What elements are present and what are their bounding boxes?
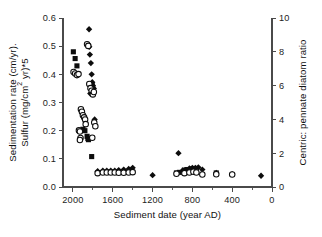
x-tick-label-800: 800 <box>184 195 200 205</box>
y-axis-title-line1: Sedimentation rate (cm/yr). <box>7 43 18 161</box>
data-point-circle <box>194 170 200 176</box>
y2-axis-title: Centric: pennate diatom ratio <box>297 39 308 165</box>
data-point-square <box>71 49 76 54</box>
series-2-square <box>71 49 219 175</box>
data-point-circle <box>76 71 82 77</box>
y2-tick-label-0: 0 <box>279 182 284 192</box>
data-point-circle <box>90 135 96 141</box>
y-tick-label-0.2: 0.2 <box>43 126 56 136</box>
y-axis-title-line2-pre: Sulfur (mg/cm <box>19 86 30 147</box>
scatter-plot: 0.00.10.20.30.40.50.60246810200016001200… <box>0 0 322 237</box>
data-point-circle <box>214 171 220 177</box>
y-axis-title-line2-post: yr)*5 <box>19 58 30 82</box>
data-point-circle <box>130 169 136 175</box>
y-tick-label-0.5: 0.5 <box>43 41 56 51</box>
data-point-diamond <box>86 26 92 32</box>
data-markers-layer <box>71 26 264 179</box>
y2-tick-label-6: 6 <box>279 81 284 91</box>
y-tick-label-0.6: 0.6 <box>43 13 56 23</box>
y2-tick-label-10: 10 <box>279 13 290 23</box>
data-point-diamond <box>89 71 95 77</box>
y-tick-label-0.4: 0.4 <box>43 70 56 80</box>
data-point-circle <box>86 43 92 49</box>
x-tick-label-1200: 1200 <box>142 195 163 205</box>
data-point-diamond <box>258 173 264 179</box>
x-tick-label-2000: 2000 <box>62 195 83 205</box>
y-tick-label-0.1: 0.1 <box>43 154 56 164</box>
data-point-circle <box>77 129 83 135</box>
data-point-square <box>74 63 79 68</box>
y2-axis-title-text: Centric: pennate diatom ratio <box>297 39 308 165</box>
data-point-circle <box>93 123 99 129</box>
data-point-diamond <box>87 51 93 57</box>
data-point-square <box>73 56 78 61</box>
data-point-circle <box>91 89 97 95</box>
y-axis-title: Sedimentation rate (cm/yr).Sulfur (mg/cm… <box>7 43 30 161</box>
data-point-diamond <box>175 150 181 156</box>
y2-tick-label-2: 2 <box>279 149 284 159</box>
series-1-diamond <box>85 26 264 179</box>
data-point-circle <box>95 170 101 176</box>
series-3-circle <box>71 41 235 177</box>
data-point-circle <box>77 137 83 143</box>
x-tick-label-0: 0 <box>269 195 274 205</box>
y2-tick-label-8: 8 <box>279 47 284 57</box>
x-axis-title: Sediment date (year AD) <box>114 209 221 220</box>
data-point-circle <box>200 172 206 178</box>
x-tick-label-400: 400 <box>224 195 240 205</box>
axis-lines-left-bottom <box>63 18 272 187</box>
y-tick-label-0.0: 0.0 <box>43 182 56 192</box>
data-point-circle <box>83 121 89 127</box>
data-point-diamond <box>149 172 155 178</box>
y-tick-label-0.3: 0.3 <box>43 98 56 108</box>
data-point-circle <box>174 171 180 177</box>
data-point-diamond <box>88 60 94 66</box>
data-point-square <box>89 154 94 159</box>
chart-figure: 0.00.10.20.30.40.50.60246810200016001200… <box>0 0 322 237</box>
data-point-circle <box>229 172 235 178</box>
data-point-square <box>82 128 87 133</box>
x-tick-label-1600: 1600 <box>102 195 123 205</box>
y2-tick-label-4: 4 <box>279 115 284 125</box>
